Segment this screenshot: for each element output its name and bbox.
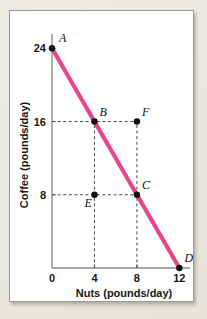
data-point-label-c: C (142, 178, 151, 192)
ppf-chart: ABFECD 04812 24168 Nuts (pounds/day) Cof… (0, 0, 207, 319)
x-axis-tick-labels: 04812 (49, 272, 186, 284)
data-point-label-e: E (83, 196, 92, 210)
y-tick-label-24: 24 (34, 42, 47, 54)
x-axis-title: Nuts (pounds/day) (76, 287, 173, 299)
data-point-label-b: B (99, 105, 107, 119)
frontier-line-group (52, 48, 179, 268)
y-axis-tick-labels: 24168 (34, 42, 47, 200)
figure-root: ABFECD 04812 24168 Nuts (pounds/day) Cof… (0, 0, 207, 319)
chart-axes (52, 34, 190, 268)
y-tick-label-16: 16 (34, 116, 46, 128)
data-point-label-a: A (58, 31, 67, 45)
y-axis-title: Coffee (pounds/day) (18, 102, 30, 209)
x-tick-label-4: 4 (91, 272, 98, 284)
data-point-f (134, 118, 140, 124)
data-point-label-f: F (141, 105, 150, 119)
x-tick-label-8: 8 (134, 272, 140, 284)
x-tick-label-12: 12 (173, 272, 185, 284)
data-point-d (176, 265, 182, 271)
data-point-labels: ABFECD (58, 31, 193, 265)
data-point-label-d: D (183, 251, 193, 265)
data-point-b (91, 118, 97, 124)
x-tick-label-0: 0 (49, 272, 55, 284)
data-point-c (134, 192, 140, 198)
data-point-e (91, 192, 97, 198)
y-tick-label-8: 8 (40, 189, 46, 201)
data-point-a (49, 45, 55, 51)
frontier-line (52, 48, 179, 268)
